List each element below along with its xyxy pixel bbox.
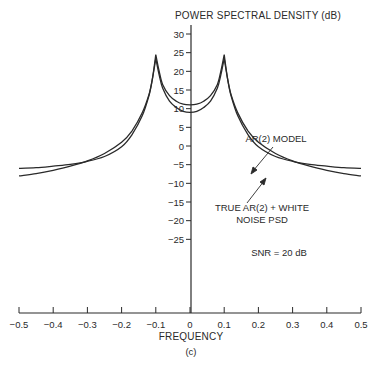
chart-title: POWER SPECTRAL DENSITY (dB) — [175, 10, 341, 21]
figure-caption: (c) — [185, 346, 196, 357]
x-tick-label: −0.1 — [146, 319, 165, 330]
true-psd-arrow — [247, 181, 264, 203]
ar2-model-curve — [19, 58, 361, 176]
x-tick-label: −0.3 — [78, 319, 97, 330]
y-tick-label: 5 — [179, 122, 184, 133]
y-tick-label: 25 — [173, 47, 184, 58]
true-psd-arrowhead — [260, 178, 266, 185]
arrow-to-ar2-model-curve — [272, 146, 281, 151]
psd-curves — [19, 55, 361, 176]
x-tick-label: 0 — [187, 319, 192, 330]
annotation-true-psd-line2: NOISE PSD — [236, 214, 288, 225]
annotation-snr: SNR = 20 dB — [251, 247, 307, 258]
x-tick-label: 0.5 — [354, 319, 367, 330]
y-tick-label: −5 — [173, 159, 184, 170]
annotation-true-psd-line1: TRUE AR(2) + WHITE — [215, 202, 309, 213]
y-tick-label: −10 — [168, 178, 184, 189]
y-tick-label: 0 — [179, 141, 184, 152]
y-tick-label: −15 — [168, 197, 184, 208]
x-tick-label: 0.2 — [252, 319, 265, 330]
arrow-to-ar2-model — [273, 146, 278, 150]
arrow-shapes — [247, 146, 281, 203]
x-tick-label: −0.5 — [10, 319, 29, 330]
y-tick-label: 20 — [173, 66, 184, 77]
arrow-model-shaft — [273, 147, 276, 149]
x-axis-label: FREQUENCY — [159, 331, 224, 342]
x-tick-label: −0.2 — [112, 319, 131, 330]
annotation-true-psd: TRUE AR(2) + WHITE NOISE PSD — [215, 202, 309, 225]
y-tick-label: −20 — [168, 215, 184, 226]
x-tick-label: −0.4 — [44, 319, 63, 330]
x-tick-label: 0.4 — [320, 319, 333, 330]
psd-chart: −0.5−0.4−0.3−0.2−0.100.10.20.30.40.5 302… — [0, 0, 380, 371]
x-ticks: −0.5−0.4−0.3−0.2−0.100.10.20.30.40.5 — [10, 307, 368, 330]
annotation-ar2-model-label: AR(2) MODEL — [245, 133, 306, 144]
y-tick-label: 30 — [173, 29, 184, 40]
ar2-model-arrowhead — [251, 167, 257, 174]
axes — [19, 25, 361, 313]
y-tick-label: 15 — [173, 85, 184, 96]
x-tick-label: 0.3 — [286, 319, 299, 330]
ar2-model-leader — [273, 148, 277, 150]
y-ticks: 302520151050−5−10−15−20−25 — [168, 29, 191, 245]
annotation-ar2-model: AR(2) MODEL — [245, 133, 306, 147]
model-leader — [274, 147, 277, 149]
ar2-model-pointer — [273, 147, 278, 151]
y-tick-label: −25 — [168, 234, 184, 245]
x-tick-label: 0.1 — [218, 319, 231, 330]
